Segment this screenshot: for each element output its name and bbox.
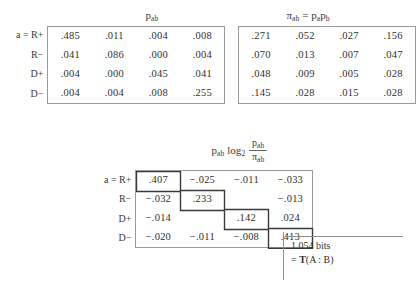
matrix-terms-title: pab log2 pab πab (152, 138, 328, 164)
matrix-cell: .485 (48, 27, 92, 46)
annotation-definition: = T(A : B) (285, 253, 403, 267)
matrix-cell: .142 (224, 209, 268, 228)
row-label: D− (16, 84, 43, 103)
table-row: .145 .028 .015 .028 (239, 84, 415, 103)
matrix-terms-title-log: log (227, 144, 241, 156)
matrix-piab: πab = papb .271 .052 .027 .156 .070 .013… (238, 10, 416, 104)
matrix-cell: .052 (283, 27, 327, 46)
matrix-cell: −.011 (180, 228, 224, 247)
matrix-pab: pab a = R+ R− D+ D− .485 .011 .004 .008 … (16, 10, 240, 104)
row-label: a = R+ (104, 170, 131, 189)
matrix-cell: .011 (92, 27, 136, 46)
matrix-pab-row-labels: a = R+ R− D+ D− (16, 26, 47, 104)
matrix-cell: −.020 (136, 228, 180, 247)
matrix-cell: .008 (180, 27, 224, 46)
fraction-numerator-subscript: ab (257, 141, 264, 150)
matrix-cell: .028 (371, 84, 415, 103)
matrix-cell: −.032 (136, 190, 180, 209)
matrix-cell: .233 (180, 190, 224, 209)
matrix-cell: .015 (327, 84, 371, 103)
matrix-cell: .028 (371, 65, 415, 84)
matrix-pab-body: a = R+ R− D+ D− .485 .011 .004 .008 .041… (16, 26, 240, 104)
matrix-cell: .407 (136, 171, 180, 190)
matrix-cell: .000 (92, 65, 136, 84)
annotation-equals: = (291, 254, 299, 265)
table-row: .485 .011 .004 .008 (48, 27, 224, 46)
matrix-cell: .004 (48, 65, 92, 84)
annotation-connector-line (283, 232, 284, 280)
matrix-piab-title-pb-subscript: b (326, 14, 330, 23)
matrix-cell: .045 (136, 65, 180, 84)
fraction-denominator-subscript: ab (257, 155, 264, 164)
matrix-cell: .004 (48, 84, 92, 103)
annotation-rule (285, 236, 403, 237)
matrix-cell: .007 (327, 46, 371, 65)
table-row: .070 .013 .007 .047 (239, 46, 415, 65)
matrix-cell: .000 (136, 46, 180, 65)
matrix-cell: .047 (371, 46, 415, 65)
matrix-cell: .271 (239, 27, 283, 46)
matrix-piab-title: πab = papb (238, 10, 378, 23)
row-label: D− (104, 229, 131, 248)
matrix-cell: .004 (180, 46, 224, 65)
table-row: .407 −.025 −.011 −.033 (136, 171, 312, 190)
fraction-denominator: πab (249, 150, 268, 164)
matrix-cell-empty (224, 190, 268, 209)
matrix-cell: .005 (327, 65, 371, 84)
matrix-cell: .070 (239, 46, 283, 65)
matrix-cell: .008 (136, 84, 180, 103)
table-row: .004 .000 .045 .041 (48, 65, 224, 84)
row-label: D+ (104, 209, 131, 228)
matrix-pab-title-subscript: ab (151, 14, 158, 23)
matrix-piab-body: .271 .052 .027 .156 .070 .013 .007 .047 … (238, 26, 416, 104)
matrix-cell: .028 (283, 84, 327, 103)
matrix-cell: .013 (283, 46, 327, 65)
matrix-cell: −.011 (224, 171, 268, 190)
matrix-cell: .004 (136, 27, 180, 46)
matrix-cell: −.014 (136, 209, 180, 228)
matrix-cell: −.025 (180, 171, 224, 190)
matrix-cell: .145 (239, 84, 283, 103)
matrix-cell: .027 (327, 27, 371, 46)
matrix-terms-title-p-subscript: ab (217, 149, 224, 158)
matrix-piab-grid: .271 .052 .027 .156 .070 .013 .007 .047 … (238, 26, 416, 104)
table-row: .004 .004 .008 .255 (48, 84, 224, 103)
annotation-T-argument: (A : B) (306, 254, 334, 265)
matrix-cell: −.013 (268, 190, 312, 209)
matrix-cell: .156 (371, 27, 415, 46)
mutual-information-annotation: 1.054 bits = T(A : B) (285, 236, 403, 266)
table-row: −.014 .142 .024 (136, 209, 312, 228)
matrix-terms-title-log-base: 2 (241, 149, 245, 158)
table-row: .041 .086 .000 .004 (48, 46, 224, 65)
row-label: R− (16, 45, 43, 64)
matrix-piab-title-equals: = (302, 9, 308, 21)
matrix-cell: .086 (92, 46, 136, 65)
matrix-cell: .048 (239, 65, 283, 84)
matrix-cell: .255 (180, 84, 224, 103)
matrix-terms-title-fraction: pab πab (249, 138, 268, 164)
matrix-cell: .009 (283, 65, 327, 84)
matrix-cell: .024 (268, 209, 312, 228)
table-row: .271 .052 .027 .156 (239, 27, 415, 46)
row-label: R− (104, 190, 131, 209)
matrix-pab-grid: .485 .011 .004 .008 .041 .086 .000 .004 … (47, 26, 225, 104)
annotation-bits-value: 1.054 bits (285, 239, 403, 253)
matrix-cell: −.008 (224, 228, 268, 247)
matrix-cell: −.033 (268, 171, 312, 190)
annotation-T-symbol: T (299, 254, 306, 265)
matrix-cell: .004 (92, 84, 136, 103)
table-row: .048 .009 .005 .028 (239, 65, 415, 84)
fraction-numerator: pab (249, 138, 268, 150)
matrix-terms-row-labels: a = R+ R− D+ D− (104, 170, 135, 248)
matrix-terms: pab log2 pab πab a = R+ R− D+ D− .407 −.… (104, 138, 328, 248)
row-label: D+ (16, 65, 43, 84)
matrix-cell: .041 (180, 65, 224, 84)
matrix-cell-empty (180, 209, 224, 228)
table-row: −.032 .233 −.013 (136, 190, 312, 209)
row-label: a = R+ (16, 26, 43, 45)
matrix-piab-title-pi-subscript: ab (292, 14, 299, 23)
matrix-cell: .041 (48, 46, 92, 65)
matrix-pab-title: pab (64, 10, 240, 23)
